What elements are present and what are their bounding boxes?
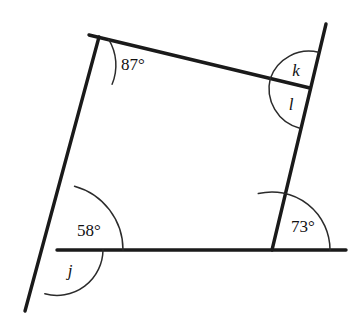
geometry-figure: 87° 58° 73° j k l	[0, 0, 363, 325]
angle-label-73: 73°	[291, 217, 315, 236]
angle-label-87: 87°	[121, 55, 145, 74]
angle-label-l: l	[289, 95, 294, 114]
angle-label-k: k	[292, 61, 300, 80]
left-side-line	[25, 37, 99, 311]
angle-label-j: j	[66, 261, 73, 280]
geometry-diagram-canvas: 87° 58° 73° j k l	[0, 0, 363, 325]
angle-label-58: 58°	[77, 221, 101, 240]
angle-arc-87	[109, 39, 116, 84]
angle-arc-58	[75, 186, 124, 250]
angle-arc-j	[45, 250, 103, 295]
